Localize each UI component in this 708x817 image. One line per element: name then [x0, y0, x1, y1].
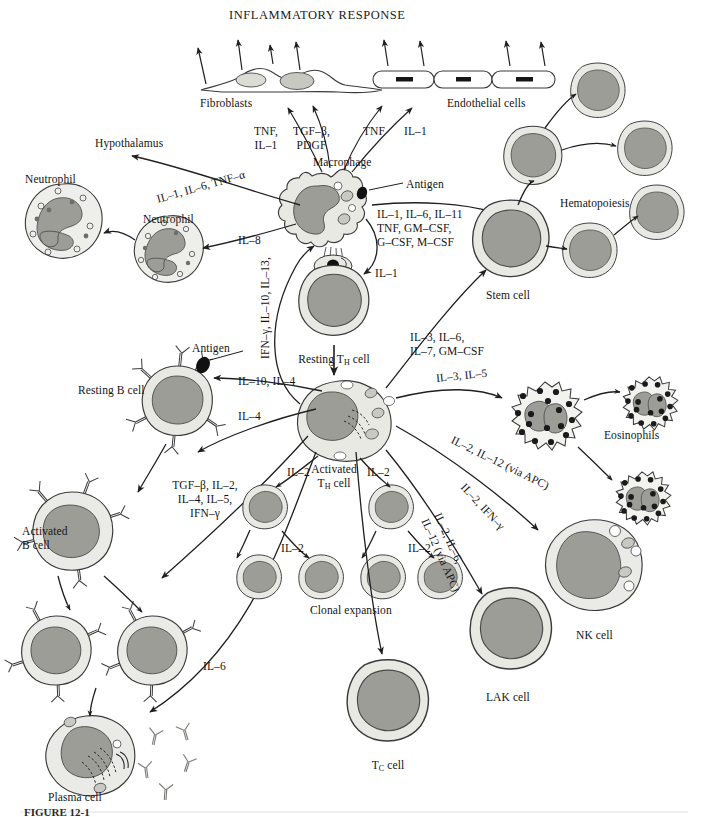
arrow-b-progeny-left — [58, 576, 70, 610]
activated-th-cell — [297, 381, 394, 462]
eosinophil-main — [512, 382, 582, 450]
label-il4: IL–4 — [238, 409, 261, 423]
label-stem-cell: Stem cell — [486, 288, 530, 302]
label-tnf-endothelial: TNF — [363, 124, 385, 138]
clonal-cell-r2-2 — [299, 555, 344, 599]
label-il6-plasma: IL–6 — [203, 659, 226, 673]
label-ifng-il10-il13: IFN–γ, IL–10, IL–13, — [258, 257, 272, 359]
eosinophil-progeny-2 — [616, 472, 671, 525]
tc-cell — [347, 660, 428, 741]
diagram-artwork — [0, 0, 708, 817]
arrow-eos-1 — [584, 392, 620, 400]
label-clonal-expansion: Clonal expansion — [310, 603, 392, 617]
arrow-eos-2 — [578, 447, 612, 480]
hematopoiesis-cell-3 — [618, 121, 672, 175]
label-macrophage-hematopoietins: IL–1, IL–6, IL–11 TNF, GM–CSF, G–CSF, M–… — [377, 207, 507, 249]
label-il2-clonal-b: IL–2 — [367, 465, 390, 479]
label-eosinophils: Eosinophils — [604, 428, 659, 442]
figure-canvas: INFLAMMATORY RESPONSE — [0, 0, 708, 817]
label-nk-cell: NK cell — [576, 628, 613, 642]
hematopoiesis-cell-4 — [563, 223, 617, 277]
label-b-differentiation-cytokines: TGF–β, IL–2, IL–4, IL–5, IFN–γ — [155, 478, 255, 520]
b-cell-progeny-right — [101, 601, 201, 702]
label-th-to-stem-cytokines: IL–3, IL–6, IL–7, GM–CSF — [410, 330, 510, 358]
arrow-neutrophil-migration — [104, 231, 135, 240]
label-il2-clonal-c: IL–2 — [281, 541, 304, 555]
hematopoiesis-cell-2 — [571, 63, 625, 117]
label-activated-b-cell: Activated B cell — [22, 524, 92, 552]
arrow-clonal-3 — [237, 530, 250, 558]
label-il1-endothelial: IL–1 — [404, 124, 427, 138]
label-tgfb-pdgf: TGF–β, PDGF — [289, 124, 334, 152]
label-antigen-macrophage: Antigen — [406, 177, 444, 191]
label-antigen-bcell: Antigen — [192, 341, 230, 355]
label-endothelial-cells: Endothelial cells — [447, 96, 526, 110]
label-lak-cell: LAK cell — [486, 690, 530, 704]
label-tnf-il1-fibroblast: TNF, IL–1 — [247, 124, 285, 152]
label-plasma-cell: Plasma cell — [48, 790, 102, 804]
resting-th-cell — [299, 265, 369, 335]
arrow-th-to-eosinophil — [396, 390, 502, 398]
neutrophil-left-cell — [25, 184, 102, 259]
hematopoiesis-cell-5 — [630, 185, 684, 239]
endothelial-cells — [373, 40, 555, 88]
label-il8: IL–8 — [238, 233, 261, 247]
arrow-b-to-plasma — [90, 688, 96, 716]
clonal-cell-r2-1 — [237, 555, 282, 599]
fibroblasts-cell — [198, 40, 382, 93]
label-resting-b-cell: Resting B cell — [78, 383, 145, 397]
label-il2-clonal-a: IL–2 — [287, 465, 310, 479]
label-hypothalamus: Hypothalamus — [95, 136, 163, 150]
label-resting-th-cell: Resting TH cell — [298, 352, 370, 368]
label-il1-to-th: IL–1 — [375, 266, 398, 280]
plasma-cell — [46, 716, 135, 796]
arrow-stem-3 — [562, 143, 616, 150]
secreted-antibodies — [138, 723, 197, 800]
nk-cell — [546, 520, 643, 611]
label-neutrophil-left: Neutrophil — [25, 172, 76, 186]
eosinophil-progeny-1 — [623, 377, 678, 430]
arrow-b-progeny-right — [104, 576, 142, 612]
label-neutrophil-right: Neutrophil — [143, 212, 194, 226]
label-fibroblasts: Fibroblasts — [200, 96, 252, 110]
label-macrophage: Macrophage — [313, 155, 371, 169]
hematopoiesis-cell-1 — [504, 126, 562, 184]
label-tc-cell: TC cell — [372, 758, 405, 774]
b-cell-progeny-left — [5, 601, 107, 702]
figure-caption: FIGURE 12-1 — [24, 806, 90, 817]
label-hematopoiesis: Hematopoiesis — [560, 196, 630, 210]
label-il10-il4: IL–10, IL–4 — [238, 374, 295, 388]
